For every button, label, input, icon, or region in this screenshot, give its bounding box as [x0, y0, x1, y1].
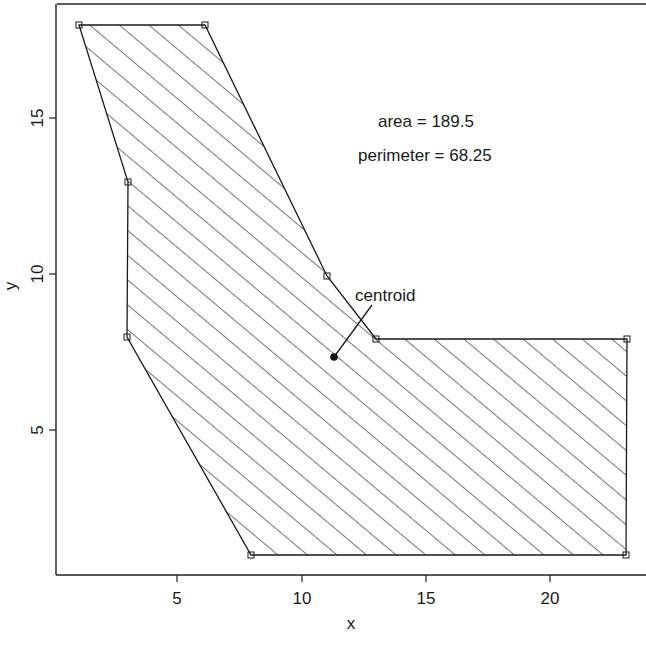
chart-plot: area = 189.5 perimeter = 68.25 centroid …: [0, 0, 646, 658]
x-axis: [177, 575, 550, 582]
y-tick-label: 5: [28, 425, 47, 434]
area-annotation: area = 189.5: [378, 112, 474, 131]
x-tick-label: 5: [172, 589, 181, 608]
y-tick-label: 15: [28, 109, 47, 128]
x-tick-label: 20: [541, 589, 560, 608]
x-tick-label: 15: [417, 589, 436, 608]
y-axis: [49, 118, 56, 430]
centroid-label: centroid: [355, 286, 415, 305]
hatched-polygon: [79, 25, 627, 555]
x-tick-label: 10: [293, 589, 312, 608]
y-axis-title: y: [1, 281, 20, 290]
x-axis-title: x: [347, 614, 356, 633]
perimeter-annotation: perimeter = 68.25: [358, 146, 492, 165]
y-tick-label: 10: [28, 265, 47, 284]
